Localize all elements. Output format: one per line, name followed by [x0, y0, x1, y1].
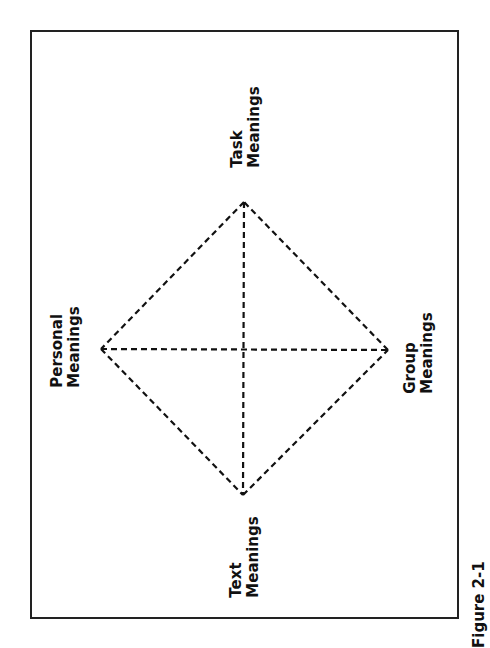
- node-label-personal: Personal Meanings: [49, 306, 83, 387]
- node-label-task-line1: Task: [229, 86, 246, 167]
- edge-personal-group: [101, 349, 388, 350]
- edge-task-personal: [101, 202, 244, 349]
- node-label-group-line2: Meanings: [419, 312, 436, 393]
- edge-text-group: [243, 350, 388, 495]
- node-label-personal-line1: Personal: [49, 306, 66, 387]
- edge-personal-text: [101, 349, 243, 495]
- node-label-group: Group Meanings: [402, 312, 436, 393]
- edge-group-task: [244, 202, 388, 350]
- node-label-personal-line2: Meanings: [66, 306, 83, 387]
- node-label-task: Task Meanings: [229, 86, 263, 167]
- node-label-task-line2: Meanings: [246, 86, 263, 167]
- node-label-text-line1: Text: [228, 516, 245, 597]
- node-label-text: Text Meanings: [228, 516, 262, 597]
- figure-caption: Figure 2-1: [470, 561, 488, 648]
- node-label-group-line1: Group: [402, 312, 419, 393]
- node-label-text-line2: Meanings: [245, 516, 262, 597]
